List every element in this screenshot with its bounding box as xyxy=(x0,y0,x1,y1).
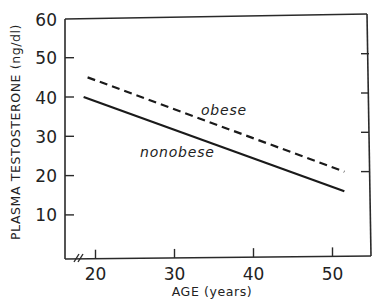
y-axis-ticks: 102030405060 xyxy=(35,10,74,225)
top-border xyxy=(65,14,367,19)
x-tick-label: 40 xyxy=(243,264,265,284)
x-axis-title: AGE (years) xyxy=(172,284,253,299)
x-axis-bottom xyxy=(65,256,371,259)
x-tick-label: 50 xyxy=(322,264,344,284)
x-tick-label: 30 xyxy=(164,264,186,284)
y-tick-label: 20 xyxy=(35,166,57,186)
series-lines xyxy=(84,77,345,191)
y-tick-label: 40 xyxy=(35,88,57,108)
x-axis-ticks: 20304050 xyxy=(85,247,344,284)
plot-frame xyxy=(65,14,371,262)
testosterone-age-chart: 102030405060 20304050 AGE (years) PLASMA… xyxy=(0,0,380,308)
y-axis-right xyxy=(367,14,371,256)
y-axis-title: PLASMA TESTOSTERONE (ng/dl) xyxy=(8,24,23,240)
y-tick-label: 50 xyxy=(35,48,57,68)
y-tick-label: 30 xyxy=(35,127,57,147)
y-tick-label: 60 xyxy=(35,10,57,30)
series-label-obese: obese xyxy=(201,102,247,118)
series-line-obese xyxy=(88,77,345,171)
y-tick-label: 10 xyxy=(35,205,57,225)
x-tick-label: 20 xyxy=(85,264,107,284)
axis-break-icon xyxy=(74,254,83,262)
series-label-nonobese: nonobese xyxy=(140,144,215,160)
